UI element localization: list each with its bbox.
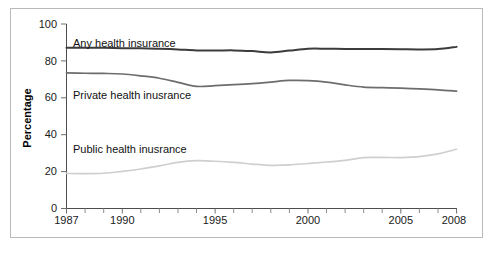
x-tick-label-1987: 1987 xyxy=(54,214,78,226)
series-label-public: Public health inusrance xyxy=(73,143,187,155)
series-label-any: Any health insurance xyxy=(73,37,176,49)
y-axis-title: Percentage xyxy=(21,88,33,147)
y-tick-label-0: 0 xyxy=(51,202,57,214)
y-tick-label-60: 60 xyxy=(45,91,57,103)
y-tick-label-20: 20 xyxy=(45,165,57,177)
x-tick-label-2008: 2008 xyxy=(442,214,466,226)
x-tick-label-2000: 2000 xyxy=(296,214,320,226)
line-chart: 0 20 40 60 80 100 Percentage xyxy=(0,0,496,253)
chart-plot-area: 0 20 40 60 80 100 Percentage xyxy=(0,0,496,253)
y-axis-ticks xyxy=(61,24,67,209)
x-axis-minor-ticks xyxy=(85,209,438,214)
x-tick-label-2005: 2005 xyxy=(389,214,413,226)
y-tick-label-40: 40 xyxy=(45,128,57,140)
figure-container: 0 20 40 60 80 100 Percentage xyxy=(0,0,496,253)
y-tick-label-100: 100 xyxy=(39,18,57,30)
x-tick-label-1990: 1990 xyxy=(110,214,134,226)
series-label-private: Private health inusrance xyxy=(73,89,191,101)
y-tick-label-80: 80 xyxy=(45,55,57,67)
x-tick-label-1995: 1995 xyxy=(203,214,227,226)
x-axis-major-ticks xyxy=(67,209,457,214)
